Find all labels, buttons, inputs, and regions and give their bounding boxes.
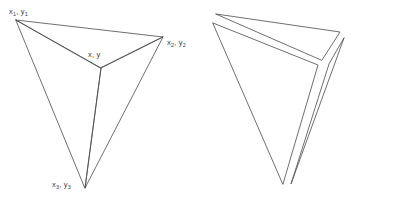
left-triangle (16, 20, 101, 188)
upper-triangle (16, 20, 163, 68)
vertex-2-y-subscript: 2 (183, 42, 186, 48)
vertex-label-1: x1, y1 (9, 7, 28, 16)
vertex-1-x-subscript: 1 (13, 11, 16, 17)
left-triangle-exploded (213, 23, 318, 184)
vertex-3-y-subscript: 3 (68, 184, 71, 190)
interior-point-label: x, y (88, 50, 100, 59)
right-triangle-exploded (291, 38, 344, 184)
vertex-label-3: x3, y3 (52, 180, 71, 189)
vertex-2-x-subscript: 2 (171, 42, 174, 48)
right-figure-group (213, 14, 344, 184)
vertex-label-2: x2, y2 (167, 38, 186, 47)
upper-triangle-exploded (216, 14, 340, 60)
right-triangle (85, 37, 163, 188)
left-figure-group (16, 20, 163, 188)
triangle-diagram-canvas (0, 0, 396, 200)
vertex-3-x-subscript: 3 (56, 184, 59, 190)
vertex-1-y-subscript: 1 (25, 11, 28, 17)
